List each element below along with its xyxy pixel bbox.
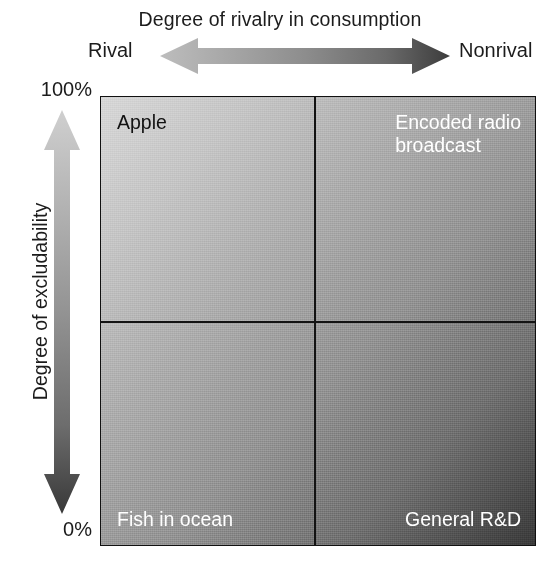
quadrant-label-bottom-right: General R&D: [405, 508, 521, 531]
double-headed-horizontal-arrow-icon: [160, 36, 450, 76]
quadrant-label-top-right: Encoded radio broadcast: [395, 111, 521, 156]
quadrant-matrix: Apple Encoded radio broadcast Fish in oc…: [100, 96, 536, 546]
x-axis-left-label: Rival: [88, 39, 132, 62]
quadrant-label-top-left: Apple: [117, 111, 167, 134]
x-axis-row: Rival Nonrival: [0, 36, 560, 76]
matrix-horizontal-divider: [101, 321, 535, 323]
y-axis-bottom-label: 0%: [0, 518, 92, 541]
double-headed-vertical-arrow-icon: [42, 110, 82, 514]
x-axis-title: Degree of rivalry in consumption: [0, 8, 560, 31]
goods-typology-matrix-diagram: Degree of rivalry in consumption Rival N…: [0, 0, 560, 564]
y-axis-top-label: 100%: [0, 78, 92, 101]
quadrant-label-bottom-left: Fish in ocean: [117, 508, 233, 531]
x-axis-right-label: Nonrival: [459, 39, 532, 62]
